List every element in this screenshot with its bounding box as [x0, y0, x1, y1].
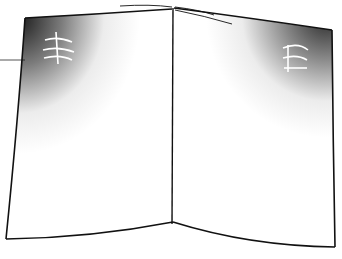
- open-book-drawing: [0, 0, 342, 259]
- illustration-canvas: [0, 0, 342, 259]
- left-page-shading: [12, 9, 172, 190]
- right-page-shading: [174, 8, 334, 170]
